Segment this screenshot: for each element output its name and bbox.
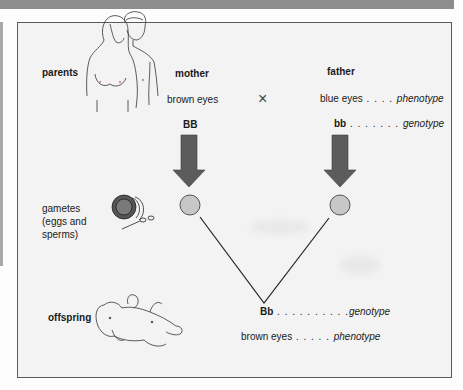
diagram-graphics: [0, 0, 463, 390]
father-gamete-circle: [330, 195, 350, 215]
down-arrow-icon: [324, 135, 356, 187]
gametes-illustration: [112, 195, 154, 229]
mother-gamete-circle: [180, 195, 200, 215]
down-arrow-icon: [173, 135, 205, 187]
baby-illustration: [96, 295, 182, 346]
parents-illustration: [87, 12, 158, 112]
cross-lines: [200, 217, 329, 303]
